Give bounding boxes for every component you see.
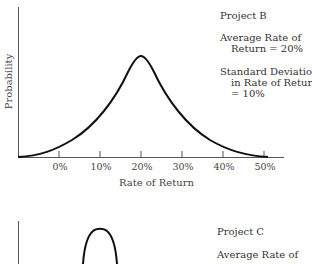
x-tick-10: 10% bbox=[86, 161, 116, 172]
y-axis-label-b: Probability bbox=[3, 54, 14, 110]
x-tick-40: 40% bbox=[209, 161, 239, 172]
x-tick-20: 20% bbox=[127, 161, 157, 172]
x-tick-0: 0% bbox=[45, 161, 75, 172]
avg-return-line1-c: Average Rate of bbox=[217, 249, 298, 261]
x-tick-30: 30% bbox=[168, 161, 198, 172]
x-tick-50: 50% bbox=[250, 161, 280, 172]
std-dev-line3-b: = 10% bbox=[231, 88, 265, 100]
x-ticks-b bbox=[59, 151, 264, 157]
chart-title-c: Project C bbox=[217, 226, 264, 238]
x-axis-label-b: Rate of Return bbox=[119, 177, 194, 188]
distribution-curve-c bbox=[83, 229, 117, 264]
chart-title-b: Project B bbox=[220, 10, 267, 22]
avg-return-line2-b: Return = 20% bbox=[231, 43, 303, 55]
